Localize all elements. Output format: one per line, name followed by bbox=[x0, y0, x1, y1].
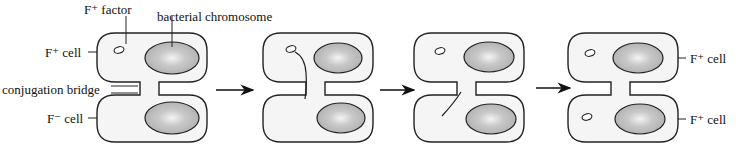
label-f-plus-factor: F⁺ factor bbox=[84, 3, 132, 16]
label-bacterial-chromosome: bacterial chromosome bbox=[157, 10, 272, 23]
stage-4 bbox=[568, 33, 678, 142]
label-f-minus-cell-left: F⁻ cell bbox=[47, 112, 83, 125]
stage-3 bbox=[414, 33, 524, 142]
stage-1 bbox=[97, 33, 207, 142]
stage-2 bbox=[263, 33, 373, 142]
label-f-plus-cell-right-top: F⁺ cell bbox=[690, 52, 726, 65]
label-conjugation-bridge: conjugation bridge bbox=[2, 83, 100, 96]
conjugation-diagram bbox=[0, 0, 745, 155]
chromosome-bottom bbox=[145, 102, 199, 134]
label-f-plus-cell-right-bottom: F⁺ cell bbox=[690, 113, 726, 126]
label-f-plus-cell-left: F⁺ cell bbox=[45, 46, 81, 59]
